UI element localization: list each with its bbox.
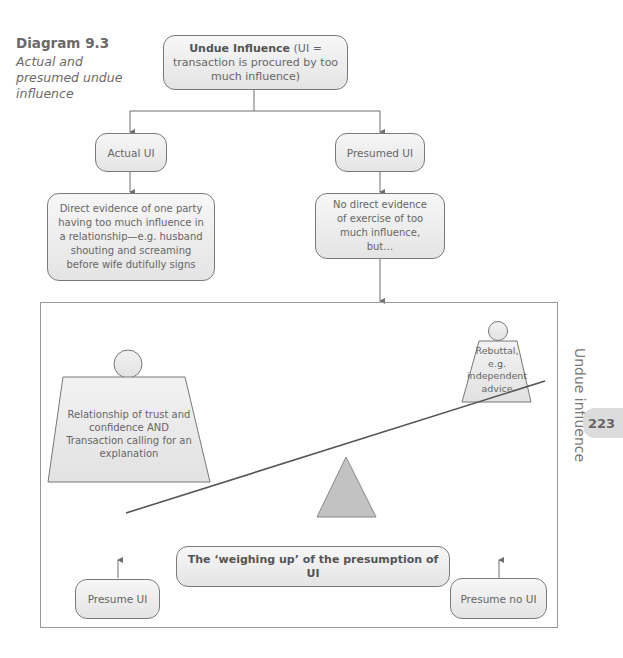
node-presumed-ui-label: Presumed UI: [347, 146, 413, 160]
node-undue-influence: Undue Influence (UI = transaction is pro…: [163, 35, 348, 90]
node-presumed-detail: No direct evidence of exercise of too mu…: [315, 193, 445, 259]
right-weight-text: Rebuttal, e.g. independent advice: [466, 345, 528, 395]
outcome-presume-ui: Presume UI: [75, 579, 160, 619]
node-presumed-ui: Presumed UI: [335, 133, 425, 172]
chapter-side-label-text: Undue influence: [572, 348, 588, 462]
scale-title: The ‘weighing up’ of the presumption of …: [176, 546, 450, 587]
outcome-presume-ui-label: Presume UI: [88, 592, 148, 606]
page-number-tab: 223: [583, 408, 623, 438]
node-presumed-detail-text: No direct evidence of exercise of too mu…: [328, 198, 432, 254]
outcome-presume-no-ui-label: Presume no UI: [460, 592, 536, 606]
node-actual-ui-label: Actual UI: [107, 146, 154, 160]
page-number: 223: [588, 416, 615, 431]
node-actual-ui: Actual UI: [95, 133, 167, 172]
node-undue-influence-title: Undue Influence: [189, 42, 290, 55]
node-actual-detail: Direct evidence of one party having too …: [47, 193, 215, 281]
chapter-side-label: Undue influence: [570, 345, 590, 465]
scale-title-text: The ‘weighing up’ of the presumption of …: [183, 553, 443, 581]
outcome-presume-no-ui: Presume no UI: [450, 578, 547, 619]
node-actual-detail-text: Direct evidence of one party having too …: [58, 202, 204, 272]
left-weight-text: Relationship of trust and confidence AND…: [64, 408, 194, 460]
